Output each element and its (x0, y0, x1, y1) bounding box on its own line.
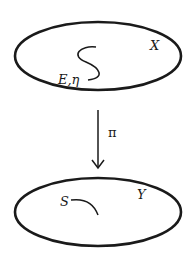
label-s: S (60, 194, 69, 209)
label-y: Y (137, 187, 147, 202)
space-x: X E,η (15, 22, 181, 90)
label-x: X (149, 38, 160, 53)
fibration-diagram: X E,η π Y S (0, 0, 195, 271)
curve-s (71, 200, 98, 215)
space-y: Y S (15, 178, 181, 246)
label-pi: π (108, 125, 117, 140)
label-e-eta: E,η (57, 72, 80, 87)
curve-e-eta (78, 47, 99, 80)
projection-map: π (92, 110, 117, 168)
ellipse-x (15, 22, 181, 90)
ellipse-y (15, 178, 181, 246)
